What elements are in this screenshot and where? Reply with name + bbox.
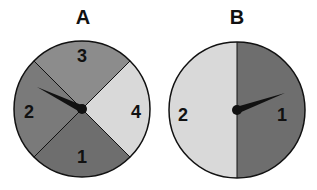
spinner-a-label-1: 1	[77, 147, 87, 167]
spinner-a-label-2: 2	[24, 102, 34, 122]
spinner-a-title: A	[76, 6, 90, 28]
spinner-a-hub	[77, 104, 87, 114]
spinner-b-label-1: 1	[277, 105, 287, 125]
spinner-b-hub	[232, 105, 242, 115]
spinner-a-label-4: 4	[131, 102, 141, 122]
spinner-b-sector-1	[237, 42, 305, 178]
spinner-a-label-3: 3	[77, 46, 87, 66]
spinner-a: A 3 4 1 2	[14, 6, 150, 177]
spinner-b-label-2: 2	[178, 105, 188, 125]
spinner-b-title: B	[230, 6, 244, 28]
spinners-diagram: A 3 4 1 2 B 1 2	[0, 0, 317, 190]
spinner-b: B 1 2	[169, 6, 305, 178]
